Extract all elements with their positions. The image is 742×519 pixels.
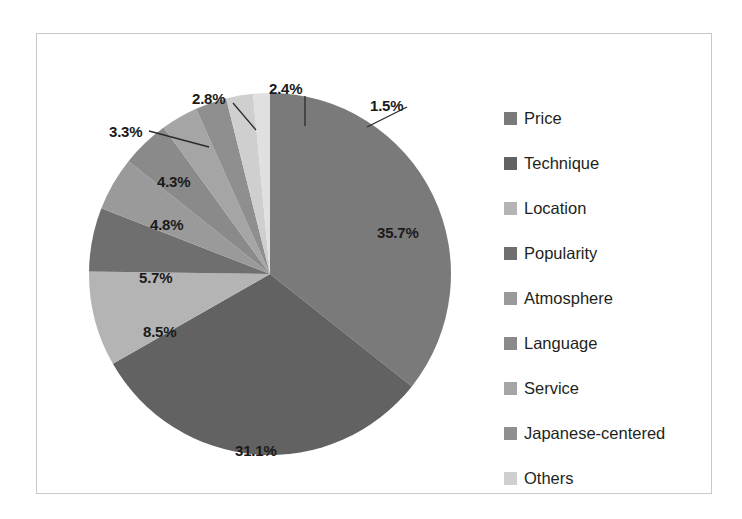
legend-item-label: Others [524, 470, 574, 487]
legend-item-label: Language [524, 335, 597, 352]
slice-percent-label: 3.3% [109, 123, 142, 140]
slice-percent-label: 4.3% [157, 173, 190, 190]
slice-percent-label: 2.8% [192, 90, 225, 107]
slice-percent-label: 2.4% [269, 80, 302, 97]
legend-item-label: Price [524, 110, 562, 127]
legend-swatch-icon [504, 427, 517, 440]
legend-swatch-icon [504, 382, 517, 395]
legend-item[interactable]: Service [504, 366, 704, 411]
legend-swatch-icon [504, 337, 517, 350]
legend-swatch-icon [504, 292, 517, 305]
slice-percent-label: 5.7% [139, 269, 172, 286]
legend-item[interactable]: Others [504, 456, 704, 501]
legend-item[interactable]: Japanese-centered [504, 411, 704, 456]
legend-item-label: Location [524, 200, 586, 217]
legend-item[interactable]: Language [504, 321, 704, 366]
legend-item-label: Japanese-centered [524, 425, 665, 442]
slice-percent-label: 31.1% [235, 442, 277, 459]
slice-percent-label: 35.7% [377, 224, 419, 241]
legend-swatch-icon [504, 157, 517, 170]
legend-item-label: Service [524, 380, 579, 397]
chart-legend: PriceTechniqueLocationPopularityAtmosphe… [504, 96, 704, 501]
slice-percent-label: 1.5% [370, 97, 403, 114]
legend-item[interactable]: Popularity [504, 231, 704, 276]
legend-item-label: Technique [524, 155, 599, 172]
plot-area: 35.7%31.1%8.5%5.7%4.8%4.3%3.3%2.8%2.4%1.… [37, 34, 711, 493]
legend-item-label: Popularity [524, 245, 597, 262]
slice-percent-label: 8.5% [143, 323, 176, 340]
legend-swatch-icon [504, 112, 517, 125]
legend-swatch-icon [504, 472, 517, 485]
legend-item[interactable]: Location [504, 186, 704, 231]
legend-item-label: Atmosphere [524, 290, 613, 307]
legend-item[interactable]: Price [504, 96, 704, 141]
legend-item[interactable]: Atmosphere [504, 276, 704, 321]
slice-percent-label: 4.8% [150, 216, 183, 233]
legend-swatch-icon [504, 202, 517, 215]
legend-swatch-icon [504, 247, 517, 260]
chart-frame: 35.7%31.1%8.5%5.7%4.8%4.3%3.3%2.8%2.4%1.… [36, 33, 712, 494]
legend-item[interactable]: Technique [504, 141, 704, 186]
